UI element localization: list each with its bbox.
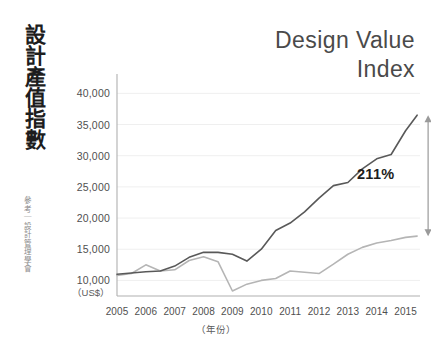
y-axis-unit-label: （US$） (54, 285, 110, 299)
y-axis-tick-35000: 35,000 (54, 119, 110, 131)
x-axis-tick-2008: 2008 (192, 306, 215, 317)
data-series-layer (117, 115, 417, 291)
x-axis-tick-2011: 2011 (279, 306, 301, 317)
x-axis-tick-2014: 2014 (365, 306, 388, 317)
y-axis-tick-15000: 15,000 (54, 243, 110, 255)
x-axis-tick-2013: 2013 (337, 306, 360, 317)
x-axis-tick-2009: 2009 (221, 306, 244, 317)
x-axis-tick-2007: 2007 (163, 306, 186, 317)
x-axis-tick-2010: 2010 (250, 306, 273, 317)
y-axis-tick-20000: 20,000 (54, 212, 110, 224)
x-axis-tick-labels: 2005200620072008200920102011201220132014… (0, 306, 431, 322)
y-axis-tick-40000: 40,000 (54, 87, 110, 99)
chart-axes (117, 74, 420, 296)
x-axis-tick-2015: 2015 (394, 306, 417, 317)
x-axis-unit-label: （年份） (0, 322, 431, 336)
y-axis-tick-30000: 30,000 (54, 150, 110, 162)
annotation-arrow (425, 115, 431, 236)
gridlines (117, 93, 420, 280)
x-axis-tick-2005: 2005 (106, 306, 129, 317)
chart-plot-area: 10,00015,00020,00025,00030,00035,00040,0… (0, 0, 431, 339)
y-axis-tick-25000: 25,000 (54, 181, 110, 193)
x-axis-tick-2012: 2012 (308, 306, 331, 317)
x-axis-tick-2006: 2006 (135, 306, 158, 317)
growth-percentage-label: 211% (357, 166, 395, 182)
